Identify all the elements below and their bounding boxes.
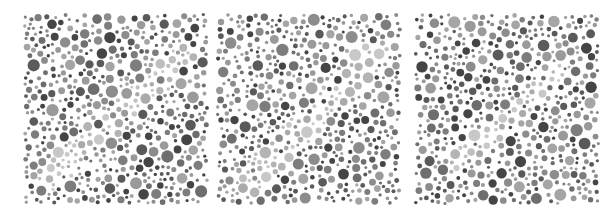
color-plate-1 bbox=[23, 13, 209, 205]
color-plate-2 bbox=[216, 13, 402, 205]
dot-pattern bbox=[414, 13, 600, 205]
dot-pattern bbox=[216, 13, 402, 205]
dot-pattern bbox=[23, 13, 209, 205]
color-plate-3 bbox=[414, 13, 600, 205]
